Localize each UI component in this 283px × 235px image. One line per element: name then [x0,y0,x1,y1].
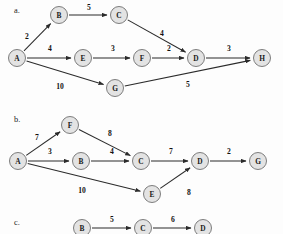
graph-node-label-c-D: D [200,224,205,233]
graph-node-label-a-F: F [140,54,145,63]
edge-b-E-D [160,168,190,189]
edge-a-A-G [27,61,104,85]
nodes-group-c: BCD [74,220,212,235]
edge-weight-a-C-D: 4 [160,29,164,38]
edge-weight-a-A-E: 4 [48,44,52,53]
edge-weight-a-A-B: 2 [25,32,29,41]
edge-weight-b-A-E: 10 [78,186,86,195]
edge-weight-a-B-C: 5 [87,3,91,12]
graph-node-label-b-G: G [255,157,261,166]
edge-weight-c-C-D: 6 [171,215,175,224]
graph-node-label-b-B: B [79,157,84,166]
graph-node-label-a-D: D [193,54,198,63]
edge-weight-a-G-H: 5 [186,80,190,89]
diagram-render-root: a.2544323105ABCDEFGHb.783472108AFBCDGEc.… [9,3,271,235]
graph-node-label-c-C: C [140,224,145,233]
graph-figure-canvas: a.2544323105ABCDEFGHb.783472108AFBCDGEc.… [0,0,283,234]
panel-label-a: a. [14,6,20,15]
panel-label-b: b. [14,115,20,124]
graph-node-label-b-F: F [68,121,73,130]
edge-b-A-F [26,132,60,156]
edge-weight-a-A-G: 10 [56,82,64,91]
edge-weight-c-B-C: 5 [110,215,114,224]
graph-node-label-a-G: G [112,84,118,93]
graph-node-label-b-C: C [138,157,143,166]
nodes-group-b: AFBCDGE [10,117,267,203]
graph-node-label-b-E: E [150,190,155,199]
edge-weight-a-F-D: 2 [167,44,171,53]
panel-label-c: c. [14,218,20,227]
figure-page: a.2544323105ABCDEFGHb.783472108AFBCDGEc.… [0,0,283,234]
graph-node-label-b-D: D [197,157,202,166]
graph-node-label-b-A: A [15,157,21,166]
edge-weight-b-A-B: 3 [48,147,52,156]
edge-weight-b-F-C: 8 [108,129,112,138]
graph-panel-b: b.783472108AFBCDGE [10,115,267,203]
graph-node-label-a-E: E [81,54,86,63]
graph-node-label-a-B: B [57,11,62,20]
edge-weight-b-B-C: 4 [110,147,114,156]
edge-a-C-D [128,20,186,52]
graph-node-label-a-H: H [259,54,265,63]
graph-node-label-c-B: B [80,224,85,233]
graph-node-label-a-C: C [116,11,121,20]
graph-panel-c: c.56BCD [14,215,212,235]
graph-node-label-a-A: A [14,54,20,63]
graph-panel-a: a.2544323105ABCDEFGH [9,3,271,97]
edge-weight-b-E-D: 8 [187,188,191,197]
edge-weight-a-D-H: 3 [227,44,231,53]
edge-weight-a-E-F: 3 [111,44,115,53]
edge-weight-b-C-D: 7 [169,147,173,156]
edge-weight-b-D-G: 2 [227,147,231,156]
edge-b-F-C [79,130,130,156]
edge-weight-b-A-F: 7 [35,133,39,142]
